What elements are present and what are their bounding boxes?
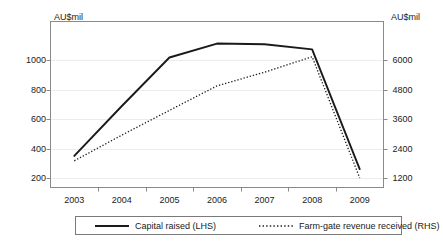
x-axis-tick-label: 2007 (255, 195, 275, 205)
x-axis-tick-label: 2003 (64, 195, 84, 205)
left-axis-tick-label: 800 (14, 85, 46, 95)
right-axis-tick-label: 3600 (393, 114, 413, 124)
right-axis-tick-label: 4800 (393, 85, 413, 95)
legend-label-farm-gate-revenue: Farm-gate revenue received (RHS) (299, 221, 440, 231)
legend-swatch-solid-line (94, 221, 130, 231)
left-axis-tick-label: 200 (14, 173, 46, 183)
legend-item-farm-gate-revenue: Farm-gate revenue received (RHS) (258, 221, 440, 231)
plot-canvas (0, 0, 443, 242)
chart-figure: AU$mil AU$mil 10008006004002006000480036… (0, 0, 443, 242)
left-axis-tick-label: 600 (14, 114, 46, 124)
right-axis-tick-label: 1200 (393, 173, 413, 183)
x-axis-tick-label: 2009 (350, 195, 370, 205)
series-line-farm-gate-revenue (74, 57, 359, 178)
right-axis-tick-label: 6000 (393, 55, 413, 65)
x-axis-tick-label: 2005 (159, 195, 179, 205)
legend-label-capital-raised: Capital raised (LHS) (135, 221, 216, 231)
x-axis-tick-label: 2006 (207, 195, 227, 205)
right-axis-tick-label: 2400 (393, 144, 413, 154)
x-axis-tick-label: 2004 (112, 195, 132, 205)
legend-swatch-dotted-line (258, 221, 294, 231)
left-axis-tick-label: 1000 (14, 55, 46, 65)
legend-item-capital-raised: Capital raised (LHS) (94, 221, 216, 231)
left-axis-tick-label: 400 (14, 144, 46, 154)
x-axis-tick-label: 2008 (302, 195, 322, 205)
series-line-capital-raised (74, 44, 359, 170)
chart-legend: Capital raised (LHS) Farm-gate revenue r… (75, 216, 402, 235)
